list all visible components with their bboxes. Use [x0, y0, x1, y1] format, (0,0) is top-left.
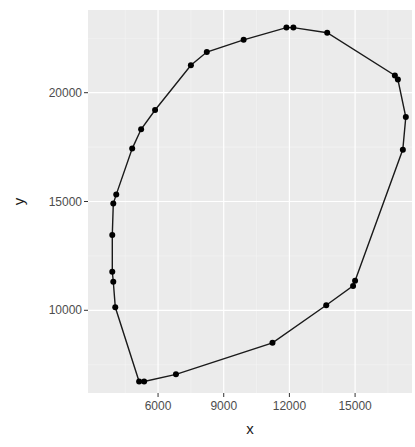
data-point	[113, 191, 119, 197]
data-point	[241, 37, 247, 43]
chart: 600090001200015000 100001500020000 x y	[0, 0, 415, 447]
data-point	[204, 49, 210, 55]
data-point	[323, 302, 329, 308]
data-point	[324, 30, 330, 36]
data-point	[110, 201, 116, 207]
data-point	[112, 304, 118, 310]
y-tick-label: 10000	[49, 303, 83, 317]
data-point	[400, 147, 406, 153]
x-axis-title: x	[246, 420, 254, 437]
y-tick-label: 20000	[49, 86, 83, 100]
data-point	[110, 279, 116, 285]
x-tick-label: 12000	[273, 399, 307, 413]
data-point	[138, 126, 144, 132]
data-point	[129, 146, 135, 152]
data-point	[188, 62, 194, 68]
data-point	[350, 283, 356, 289]
data-point	[395, 76, 401, 82]
y-axis-title: y	[10, 197, 27, 205]
data-point	[109, 269, 115, 275]
data-point	[152, 107, 158, 113]
data-point	[290, 25, 296, 31]
x-tick-label: 15000	[338, 399, 372, 413]
x-axis: 600090001200015000	[145, 393, 372, 413]
data-point	[283, 25, 289, 31]
data-point	[403, 114, 409, 120]
x-tick-label: 9000	[210, 399, 237, 413]
x-tick-label: 6000	[145, 399, 172, 413]
data-point	[136, 378, 142, 384]
data-point	[109, 232, 115, 238]
y-tick-label: 15000	[49, 195, 83, 209]
data-point	[173, 371, 179, 377]
data-point	[269, 340, 275, 346]
y-axis: 100001500020000	[49, 86, 88, 318]
